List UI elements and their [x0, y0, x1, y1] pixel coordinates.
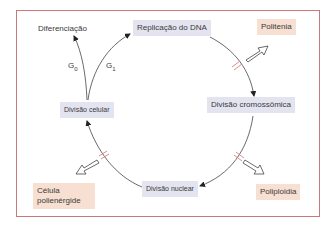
- node-poliploidia-label: Poliploidia: [260, 187, 296, 196]
- node-politenia-label: Politenia: [261, 22, 292, 31]
- hollow-arrow-polienergide: [76, 160, 99, 174]
- arrow-chromosomal-to-nuclear: [200, 116, 253, 186]
- node-celula-polienergide-line1: Célula: [37, 186, 91, 196]
- node-replicacao-dna: Replicação do DNA: [133, 20, 211, 36]
- node-divisao-cromossomica: Divisão cromossômica: [207, 97, 295, 113]
- hollow-arrow-politenia: [246, 46, 268, 62]
- node-poliploidia: Poliploidia: [256, 184, 300, 200]
- node-politenia: Politenia: [257, 19, 296, 35]
- label-g1: G1: [106, 61, 116, 72]
- label-g0: G0: [68, 61, 78, 72]
- node-divisao-nuclear-label: Divisão nuclear: [146, 185, 194, 192]
- node-replicacao-label: Replicação do DNA: [137, 23, 207, 32]
- node-diferenciacao: Diferenciação: [38, 24, 87, 34]
- node-divisao-nuclear: Divisão nuclear: [142, 181, 198, 197]
- node-celula-polienergide-line2: polienérgide: [37, 196, 91, 206]
- node-celula-polienergide: Célula polienérgide: [33, 183, 95, 209]
- hollow-arrow-poliploidia: [243, 160, 264, 174]
- node-divisao-cromossomica-label: Divisão cromossômica: [211, 100, 291, 109]
- node-divisao-celular-label: Divisão celular: [64, 106, 110, 113]
- arrow-nuclear-to-cellular: [87, 121, 142, 187]
- node-divisao-celular: Divisão celular: [60, 102, 114, 118]
- break-mark-polienergide: [99, 151, 109, 159]
